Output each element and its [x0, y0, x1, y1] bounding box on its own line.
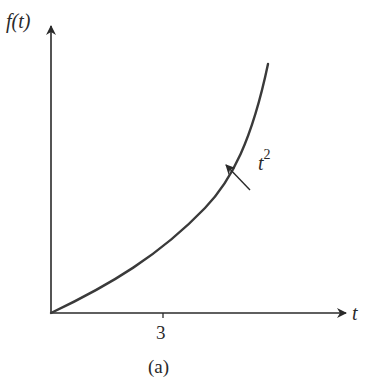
- annotation-exponent: 2: [264, 147, 271, 162]
- x-axis-label: t: [352, 302, 358, 325]
- y-axis-label: f(t): [6, 10, 30, 33]
- chart-canvas: [0, 0, 370, 392]
- curve-annotation: t2: [258, 150, 271, 175]
- figure-caption: (a): [148, 356, 169, 378]
- x-tick-label-3: 3: [156, 322, 166, 344]
- curve-t-squared: [51, 64, 268, 313]
- annotation-base: t: [258, 152, 264, 174]
